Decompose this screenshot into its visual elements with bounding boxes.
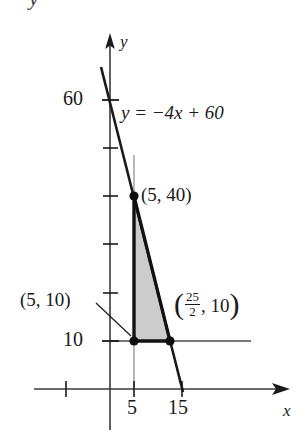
point-label-5-40: (5, 40) — [141, 185, 192, 204]
y-tick-label-10: 10 — [63, 329, 83, 349]
x-tick-label-15: 15 — [168, 397, 188, 417]
line-equation-annotation: y = −4x + 60 — [121, 103, 224, 122]
y-tick-label-60: 60 — [63, 88, 83, 108]
y-axis-label: y — [120, 33, 128, 50]
x-tick-label-5: 5 — [127, 397, 137, 417]
y-axis — [102, 33, 119, 430]
point-label-5-10: (5, 10) — [20, 290, 71, 309]
close-paren-glyph: ) — [230, 287, 240, 320]
leader-line-point-bottom-left — [96, 303, 131, 336]
vertex-dot-5-10 — [129, 336, 138, 345]
vertex-dot-25-2-10 — [165, 336, 174, 345]
math-graph-figure: y — [0, 0, 307, 444]
point-label-tail: , 10 — [201, 295, 230, 316]
vertex-dot-5-40 — [129, 191, 138, 200]
fraction-numerator: 25 — [185, 290, 200, 304]
fraction-25-over-2: 252 — [185, 290, 200, 319]
x-axis — [34, 381, 290, 397]
x-axis-label: x — [283, 402, 291, 419]
open-paren-glyph: ( — [174, 287, 184, 320]
point-label-25-over-2-10: (252, 10) — [174, 291, 240, 320]
fraction-denominator: 2 — [185, 305, 200, 319]
plot-canvas — [0, 0, 307, 444]
